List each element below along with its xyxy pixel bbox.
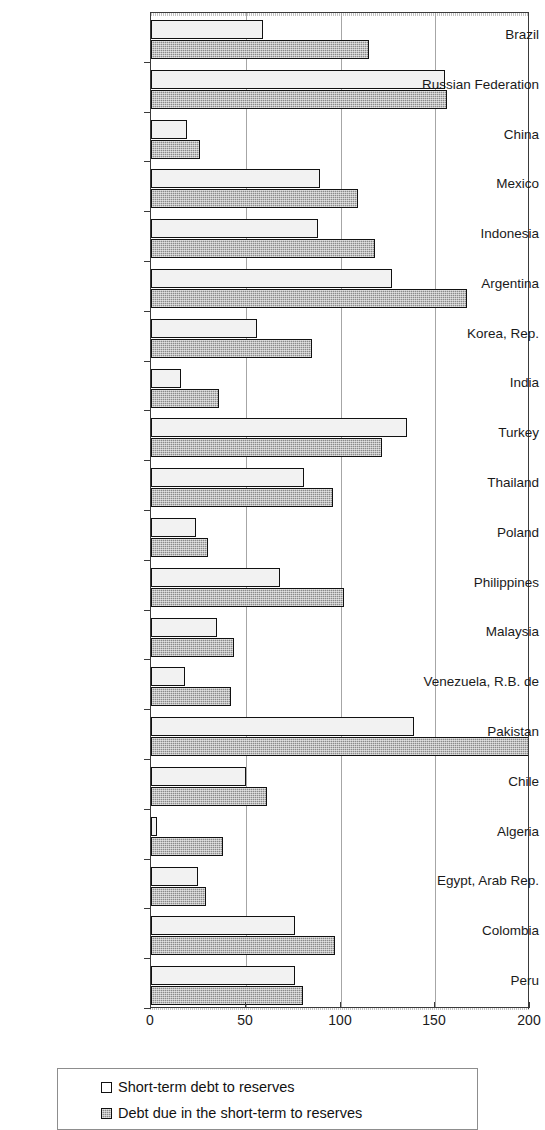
category-label: Philippines (393, 576, 539, 590)
bar (151, 717, 414, 736)
x-tick-mark (434, 1002, 435, 1008)
bar (151, 239, 375, 258)
category-tick (144, 809, 150, 810)
category-tick (144, 311, 150, 312)
category-label: Korea, Rep. (393, 327, 539, 341)
bar (151, 169, 320, 188)
bar (151, 438, 382, 457)
category-tick (144, 759, 150, 760)
category-tick (144, 859, 150, 860)
bar (151, 767, 246, 786)
bar (151, 538, 208, 557)
x-tick-label: 0 (120, 1012, 180, 1028)
x-tick-mark (340, 1002, 341, 1008)
category-label: Venezuela, R.B. de (393, 675, 539, 689)
category-label: Colombia (393, 924, 539, 938)
category-label: Pakistan (393, 725, 539, 739)
category-label: Poland (393, 526, 539, 540)
bar (151, 737, 529, 756)
legend-swatch-dark-icon (101, 1108, 112, 1119)
category-label: Turkey (393, 426, 539, 440)
legend-item-short-term-debt: Short-term debt to reserves (101, 1078, 295, 1096)
legend-label: Short-term debt to reserves (118, 1079, 295, 1095)
bar (151, 269, 392, 288)
bar (151, 120, 187, 139)
bar (151, 389, 219, 408)
bar (151, 588, 344, 607)
x-tick-mark (529, 1002, 530, 1008)
category-label: Russian Federation (393, 78, 539, 92)
category-label: Egypt, Arab Rep. (393, 874, 539, 888)
bar (151, 687, 231, 706)
legend-swatch-light-icon (101, 1082, 112, 1093)
x-axis-line-shadow (150, 1008, 529, 1010)
bar (151, 189, 358, 208)
x-tick-mark (245, 1002, 246, 1008)
category-tick (144, 610, 150, 611)
bar (151, 289, 467, 308)
bar (151, 418, 407, 437)
category-tick (144, 410, 150, 411)
bar (151, 319, 257, 338)
gridline-100 (341, 13, 342, 1007)
bar (151, 40, 369, 59)
bar (151, 568, 280, 587)
category-tick (144, 460, 150, 461)
category-tick (144, 161, 150, 162)
bar (151, 140, 200, 159)
category-label: Malaysia (393, 625, 539, 639)
category-tick (144, 261, 150, 262)
category-label: Indonesia (393, 227, 539, 241)
gridline-50 (246, 13, 247, 1007)
bar (151, 966, 295, 985)
category-label: Algeria (393, 825, 539, 839)
bar (151, 369, 181, 388)
bar (151, 618, 217, 637)
plot-area (150, 12, 529, 1008)
category-label: Mexico (393, 177, 539, 191)
gridline-150 (435, 13, 436, 1007)
x-tick-label: 100 (310, 1012, 370, 1028)
bar (151, 638, 234, 657)
bar (151, 339, 312, 358)
legend: Short-term debt to reserves Debt due in … (57, 1068, 478, 1130)
bar (151, 90, 447, 109)
category-label: India (393, 376, 539, 390)
bar (151, 936, 335, 955)
bar (151, 837, 223, 856)
legend-label: Debt due in the short-term to reserves (118, 1105, 362, 1121)
bar (151, 219, 318, 238)
bar (151, 667, 185, 686)
bar (151, 867, 198, 886)
category-tick (144, 112, 150, 113)
x-tick-label: 50 (215, 1012, 275, 1028)
category-label: Thailand (393, 476, 539, 490)
category-tick (144, 958, 150, 959)
category-tick (144, 62, 150, 63)
bar (151, 20, 263, 39)
category-tick (144, 908, 150, 909)
bar (151, 468, 304, 487)
category-tick (144, 659, 150, 660)
plot-top-border (151, 13, 528, 16)
category-label: Brazil (393, 28, 539, 42)
bar (151, 916, 295, 935)
category-tick (144, 510, 150, 511)
category-label: China (393, 128, 539, 142)
legend-item-debt-due-short-term: Debt due in the short-term to reserves (101, 1104, 362, 1122)
x-tick-mark (150, 1002, 151, 1008)
x-tick-label: 150 (404, 1012, 464, 1028)
category-label: Chile (393, 775, 539, 789)
bar (151, 887, 206, 906)
bar (151, 986, 303, 1005)
bar (151, 518, 196, 537)
bar (151, 488, 333, 507)
category-label: Peru (393, 974, 539, 988)
category-label: Argentina (393, 277, 539, 291)
category-tick (144, 361, 150, 362)
bar (151, 787, 267, 806)
category-tick (144, 211, 150, 212)
bar (151, 817, 157, 836)
category-tick (144, 709, 150, 710)
